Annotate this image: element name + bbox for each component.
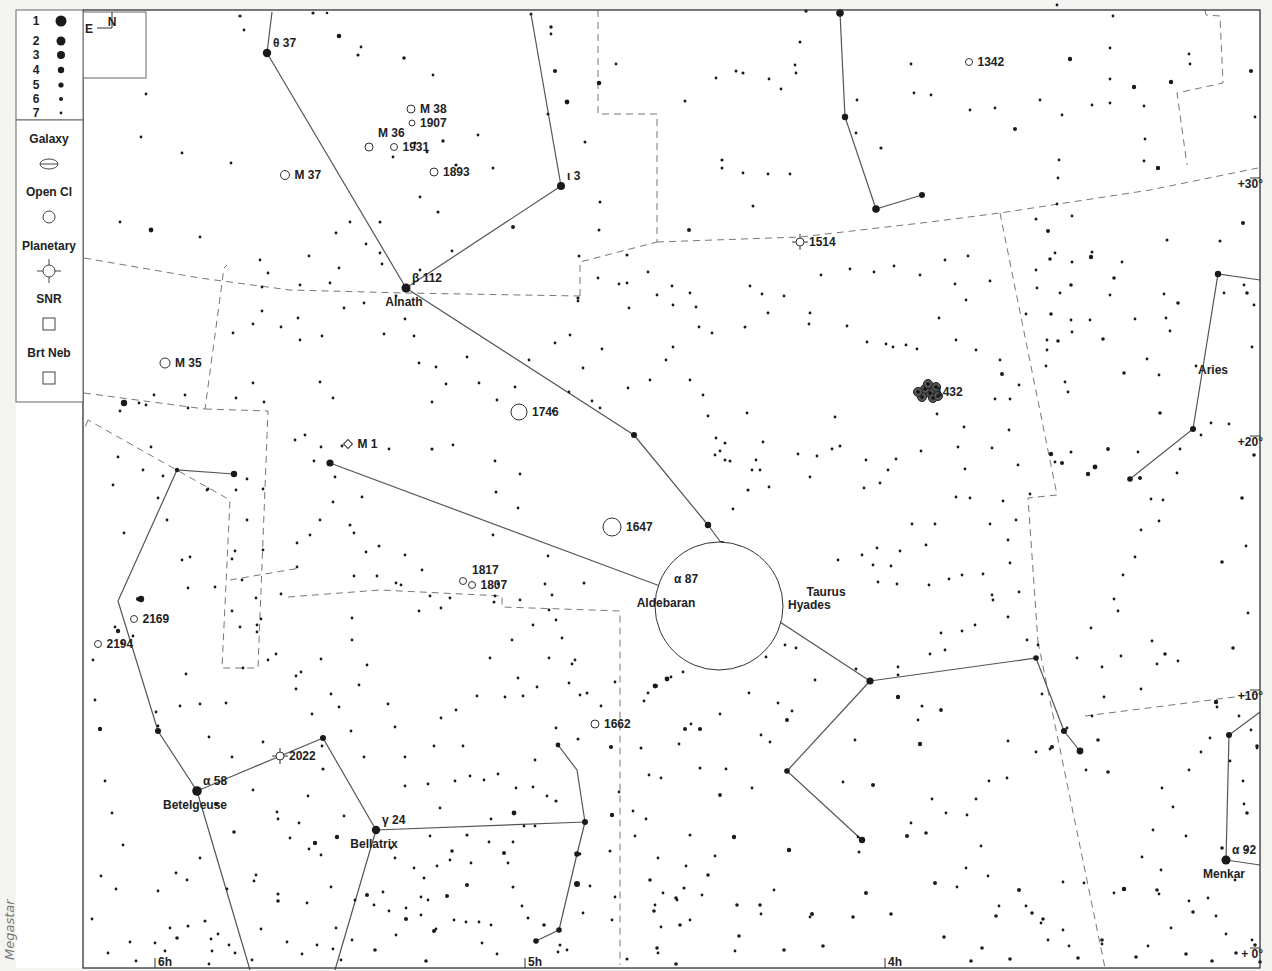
star <box>231 756 234 759</box>
star <box>192 786 202 796</box>
legend-magnitude-dot <box>58 82 63 87</box>
star <box>1029 493 1032 496</box>
star-chart: M 381907M 3619311893M 3715141342M 351746… <box>0 0 1272 971</box>
star <box>517 677 520 680</box>
star <box>490 818 493 821</box>
star <box>1035 269 1038 272</box>
star <box>1046 339 1049 342</box>
legend-magnitude-dot <box>56 16 67 27</box>
star <box>387 703 390 706</box>
star <box>1245 291 1249 295</box>
star <box>1188 769 1191 772</box>
star <box>799 41 802 44</box>
star <box>1106 770 1110 774</box>
open-cluster-icon <box>430 168 438 176</box>
star <box>337 34 342 39</box>
deep-sky-object-1647[interactable]: 1647 <box>603 518 653 536</box>
star <box>495 491 498 494</box>
star <box>334 476 337 479</box>
star <box>631 432 637 438</box>
star <box>267 272 270 275</box>
star <box>718 793 722 797</box>
star <box>1234 951 1238 955</box>
star <box>876 547 879 550</box>
star <box>138 402 141 405</box>
star <box>1252 453 1256 457</box>
star <box>702 394 705 397</box>
star <box>275 653 278 656</box>
star <box>737 934 741 938</box>
star <box>586 692 589 695</box>
star <box>1061 114 1064 117</box>
star <box>1166 239 1169 242</box>
deep-sky-object-1746[interactable]: 1746 <box>511 404 559 420</box>
legend-galaxy-label: Galaxy <box>29 132 69 146</box>
star-designation: γ 24 <box>382 813 406 827</box>
star <box>169 927 172 930</box>
star <box>998 905 1001 908</box>
star <box>252 789 255 792</box>
star <box>913 92 916 95</box>
star <box>1137 451 1140 454</box>
star <box>665 359 668 362</box>
star <box>1241 221 1245 225</box>
star <box>1025 313 1028 316</box>
star-designation: ι 3 <box>567 169 581 183</box>
star <box>330 886 333 889</box>
supernova-remnant-icon <box>43 318 55 330</box>
star <box>119 221 122 224</box>
star <box>349 524 352 527</box>
dso-label: 1807 <box>481 578 508 592</box>
star <box>1067 391 1070 394</box>
star <box>1209 737 1212 740</box>
star <box>749 285 752 288</box>
star-name: Aldebaran <box>637 596 696 610</box>
deep-sky-object-m-35[interactable]: M 35 <box>160 356 202 370</box>
star <box>231 558 234 561</box>
star <box>1035 218 1038 221</box>
star <box>582 367 585 370</box>
named-star-3[interactable]: ι 3 <box>567 169 581 183</box>
star <box>454 780 457 783</box>
star <box>768 486 771 489</box>
dso-label: 2022 <box>289 749 316 763</box>
star <box>404 917 408 921</box>
star <box>834 416 837 419</box>
star <box>234 550 237 553</box>
star <box>598 229 601 232</box>
legend-magnitude-label: 7 <box>33 106 40 120</box>
star <box>321 335 324 338</box>
star <box>1060 461 1064 465</box>
star <box>1253 304 1256 307</box>
star <box>1127 476 1133 482</box>
star <box>591 400 594 403</box>
star <box>1017 888 1021 892</box>
star <box>365 893 369 897</box>
star <box>556 743 561 748</box>
chart-background <box>16 10 1260 968</box>
star <box>711 332 714 335</box>
star <box>721 167 724 170</box>
star <box>1056 203 1059 206</box>
star <box>715 437 718 440</box>
star <box>956 886 959 889</box>
star <box>707 415 710 418</box>
star <box>256 631 259 634</box>
star <box>955 339 958 342</box>
star <box>837 559 840 562</box>
dso-label: M 38 <box>420 102 447 116</box>
star <box>319 381 322 384</box>
star <box>1117 610 1120 613</box>
star <box>1143 105 1146 108</box>
star <box>791 710 794 713</box>
star <box>571 663 574 666</box>
star <box>332 397 335 400</box>
star <box>1158 374 1161 377</box>
star <box>239 626 242 629</box>
legend-snr-label: SNR <box>36 292 62 306</box>
star <box>942 935 946 939</box>
named-star-37[interactable]: θ 37 <box>273 36 296 50</box>
star <box>199 857 202 860</box>
star <box>1009 398 1012 401</box>
star <box>714 454 717 457</box>
